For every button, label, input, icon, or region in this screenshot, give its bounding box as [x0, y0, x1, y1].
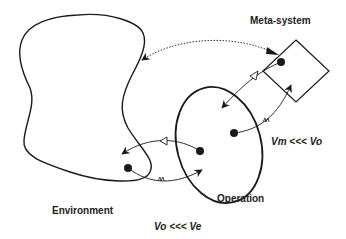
environment-label: Environment: [52, 205, 113, 216]
arrow-meta-to-operation: [222, 62, 281, 108]
meta-system-label: Meta-system: [250, 15, 311, 26]
environment-shape: [20, 14, 152, 181]
arrow-operation-to-meta: [234, 85, 291, 133]
operation-label: Operation: [217, 193, 264, 204]
vo-ve-relation: Vo <<< Ve: [154, 221, 201, 232]
arrow-operation-to-environment: [122, 141, 200, 155]
meta-system-shape: [263, 40, 329, 102]
dotted-arrow-meta-to-environment: [142, 40, 276, 60]
dotted-arrow-head-meta: [266, 47, 279, 55]
vm-vo-relation: Vm <<< Vo: [271, 136, 322, 147]
open-triangle-icon: [250, 71, 258, 80]
open-triangle-icon-2: [160, 137, 167, 145]
diagram-canvas: [0, 0, 346, 239]
